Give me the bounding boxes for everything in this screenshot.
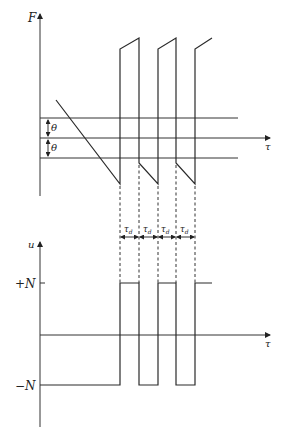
u-waveform: [40, 283, 212, 385]
bottom-plot: u τ +N −N: [15, 239, 271, 427]
tau-axis-top-label: τ: [265, 141, 271, 152]
f-waveform: [56, 38, 212, 184]
tau-axis-bottom-label: τ: [265, 338, 271, 349]
theta-lower-label: θ: [51, 142, 57, 153]
delay-label-3: τd: [161, 224, 170, 235]
f-axis-label: F: [27, 11, 37, 25]
plus-n-label: +N: [15, 277, 36, 291]
delay-label-1: τd: [124, 224, 133, 235]
u-axis-label: u: [28, 239, 34, 250]
top-plot: F τ θ θ: [27, 11, 271, 196]
relay-switching-diagram: F τ θ θ τd τd τd τd u τ +: [0, 0, 284, 444]
delay-label-4: τd: [180, 224, 189, 235]
delay-label-2: τd: [143, 224, 152, 235]
theta-upper-label: θ: [51, 122, 57, 133]
minus-n-label: −N: [15, 379, 36, 393]
